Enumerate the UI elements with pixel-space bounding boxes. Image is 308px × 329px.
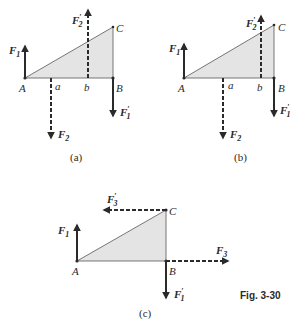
label-f3: F3 (215, 244, 227, 259)
label-B: B (278, 82, 285, 94)
label-B: B (116, 82, 123, 94)
label-f1-prime: F′1 (279, 103, 291, 119)
label-f3-prime: F′3 (106, 192, 118, 208)
label-b: b (257, 81, 263, 93)
label-f1: F1 (57, 224, 69, 239)
point-c-dot (273, 24, 276, 27)
caption-a: (a) (70, 151, 83, 164)
label-C: C (169, 205, 177, 217)
point-a-dot (182, 76, 185, 79)
triangle-abc (77, 210, 166, 261)
label-f1: F1 (8, 44, 20, 59)
label-f2: F2 (229, 128, 241, 143)
label-f2-prime: F′2 (71, 13, 83, 29)
point-b-dot (164, 259, 167, 262)
label-A: A (18, 82, 26, 94)
triangle-abc (25, 27, 113, 78)
label-f1-prime: F′1 (119, 105, 131, 121)
label-a: a (55, 80, 61, 92)
point-c-dot (112, 26, 115, 29)
label-f2-prime: F′2 (245, 16, 257, 32)
panel-b: A a b B C F1 F2 F′2 F′1 (b) (168, 16, 291, 164)
point-b-dot (111, 76, 114, 79)
point-a-dot (23, 76, 26, 79)
label-f1-prime: F′1 (173, 287, 185, 303)
label-b: b (84, 81, 90, 93)
point-b-dot (272, 76, 275, 79)
caption-b: (b) (234, 151, 247, 164)
point-c-dot (164, 208, 167, 211)
figure-canvas: A a b B C F1 F2 F′2 F′1 (a) A a b B C F1… (0, 0, 308, 329)
caption-c: (c) (139, 307, 152, 320)
point-a-dot (75, 259, 78, 262)
label-a: a (228, 79, 234, 91)
label-B: B (169, 265, 176, 277)
label-f1: F1 (168, 42, 180, 57)
panel-a: A a b B C F1 F2 F′2 F′1 (a) (8, 10, 131, 164)
label-C: C (116, 22, 124, 34)
label-f2: F2 (57, 128, 69, 143)
label-C: C (278, 21, 286, 33)
panel-c: A B C F1 F′3 F3 F′1 (c) (57, 192, 228, 320)
label-A: A (71, 265, 79, 277)
figure-label: Fig. 3-30 (240, 290, 281, 301)
label-A: A (177, 82, 185, 94)
